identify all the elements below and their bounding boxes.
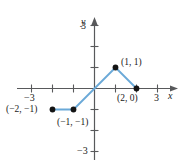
point-label-neg1-neg1: (−1, −1): [57, 118, 88, 128]
data-point-neg1-neg1: [71, 107, 77, 113]
data-point-1-1: [113, 65, 119, 71]
y-tick-label-neg3: −3: [77, 146, 88, 156]
point-label-2-0: (2, 0): [117, 94, 138, 104]
data-point-2-0: [134, 86, 140, 92]
y-axis-arrow-icon: [91, 17, 97, 25]
coordinate-plane-svg: [0, 0, 184, 167]
y-tick-label-3: 3: [81, 21, 86, 31]
data-point-neg2-neg1: [50, 107, 56, 113]
graph-figure: y x 3 −3 −3 3 (−2, −1) (−1, −1) (1, 1) (…: [0, 0, 184, 167]
x-tick-label-3: 3: [154, 93, 159, 103]
point-label-1-1: (1, 1): [121, 58, 142, 68]
x-tick-label-neg3: −3: [24, 93, 35, 103]
point-label-neg2-neg1: (−2, −1): [6, 105, 37, 115]
x-axis-label: x: [168, 91, 172, 101]
